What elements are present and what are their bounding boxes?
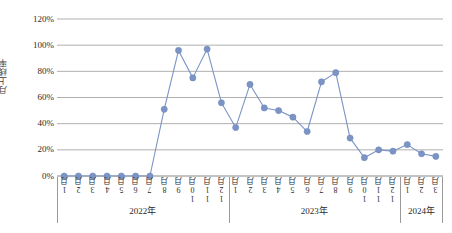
x-axis-tick-label: 10月 — [187, 177, 198, 203]
x-axis-tick-label: 11月 — [373, 177, 384, 203]
data-point — [233, 124, 239, 130]
y-axis-tick-label: 40% — [38, 119, 55, 128]
x-axis-year-label: 2024年 — [400, 206, 443, 217]
line-chart: 月上线率 120%100%80%60%40%20%0% 1月2月3月4月5月6月… — [0, 0, 452, 233]
x-axis-tick-label: 6月 — [302, 177, 313, 194]
year-group-separator — [400, 177, 401, 223]
plot-svg — [57, 19, 443, 176]
x-axis-tick-label: 8月 — [330, 177, 341, 194]
x-axis-tick-label: 12月 — [387, 177, 398, 203]
x-axis-tick-label: 4月 — [102, 177, 113, 194]
x-axis-tick-label: 3月 — [87, 177, 98, 194]
year-group-separator — [229, 177, 230, 223]
x-axis-tick-label: 2月 — [245, 177, 256, 194]
x-axis-tick-label: 1月 — [59, 177, 70, 194]
data-point — [347, 135, 353, 141]
data-point — [190, 75, 196, 81]
y-axis-tick-labels: 120%100%80%60%40%20%0% — [14, 0, 56, 233]
y-axis-tick-label: 0% — [42, 172, 54, 181]
y-axis-tick-label: 100% — [33, 41, 54, 50]
data-point — [218, 100, 224, 106]
data-point — [361, 155, 367, 161]
plot-area — [57, 19, 443, 176]
x-axis-tick-label: 2月 — [73, 177, 84, 194]
x-axis-tick-label: 3月 — [430, 177, 441, 194]
x-axis-tick-label: 11月 — [202, 177, 213, 203]
y-axis-tick-label: 60% — [38, 93, 55, 102]
x-axis-tick-label: 9月 — [345, 177, 356, 194]
y-axis-tick-label: 80% — [38, 67, 55, 76]
y-axis-tick-label: 20% — [38, 145, 55, 154]
x-axis-tick-label: 10月 — [359, 177, 370, 203]
x-axis-tick-label: 2月 — [416, 177, 427, 194]
x-axis-tick-label: 3月 — [259, 177, 270, 194]
data-point — [404, 142, 410, 148]
data-point — [390, 148, 396, 154]
data-point — [418, 151, 424, 157]
series-markers — [61, 46, 439, 179]
data-point — [275, 107, 281, 113]
x-axis-tick-label: 1月 — [402, 177, 413, 194]
data-point — [261, 105, 267, 111]
x-axis-tick-label: 8月 — [159, 177, 170, 194]
data-point — [290, 114, 296, 120]
x-axis-tick-label: 4月 — [273, 177, 284, 194]
data-point — [333, 70, 339, 76]
x-axis-tick-label: 5月 — [116, 177, 127, 194]
x-axis-year-labels: 2022年2023年2024年 — [57, 203, 443, 225]
data-point — [204, 46, 210, 52]
data-point — [175, 47, 181, 53]
x-axis-tick-label: 6月 — [130, 177, 141, 194]
x-axis-month-labels: 1月2月3月4月5月6月7月8月9月10月11月12月1月2月3月4月5月6月7… — [57, 177, 443, 203]
data-point — [318, 79, 324, 85]
data-point — [433, 153, 439, 159]
x-axis-tick-label: 7月 — [144, 177, 155, 194]
x-axis-tick-label: 5月 — [287, 177, 298, 194]
data-point — [161, 106, 167, 112]
x-axis-tick-label: 7月 — [316, 177, 327, 194]
x-axis-year-label: 2023年 — [229, 206, 401, 217]
x-axis-tick-label: 12月 — [216, 177, 227, 203]
y-axis-tick-label: 120% — [33, 15, 54, 24]
series-polyline — [64, 49, 436, 176]
gridlines — [57, 19, 443, 176]
x-axis-year-label: 2022年 — [57, 206, 229, 217]
data-point — [304, 128, 310, 134]
data-point — [376, 147, 382, 153]
x-axis-tick-label: 1月 — [230, 177, 241, 194]
x-axis-tick-label: 9月 — [173, 177, 184, 194]
data-point — [247, 81, 253, 87]
series-line — [64, 49, 436, 176]
